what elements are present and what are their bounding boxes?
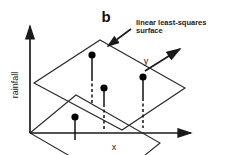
callout-arrow-icon: [108, 29, 131, 46]
data-points: [71, 51, 146, 120]
data-point-p3: [139, 73, 146, 80]
axis-label-x: x: [112, 142, 117, 152]
least-squares-plane: [34, 40, 185, 130]
data-point-p1: [88, 51, 95, 58]
least-squares-plane-outline: [34, 40, 185, 130]
data-point-p2: [100, 84, 107, 91]
annotation-line-2: surface: [136, 26, 163, 35]
least-squares-surface-figure: b linear least-squares surface rainfall …: [0, 0, 240, 155]
axis-label-rainfall: rainfall: [10, 72, 20, 99]
base-plane-outline: [30, 95, 160, 155]
data-point-p4: [71, 113, 78, 120]
diagram-canvas: b linear least-squares surface rainfall …: [0, 0, 240, 155]
panel-label-b: b: [101, 8, 110, 25]
axis-label-y: y: [144, 56, 149, 66]
base-plane: [30, 95, 160, 155]
